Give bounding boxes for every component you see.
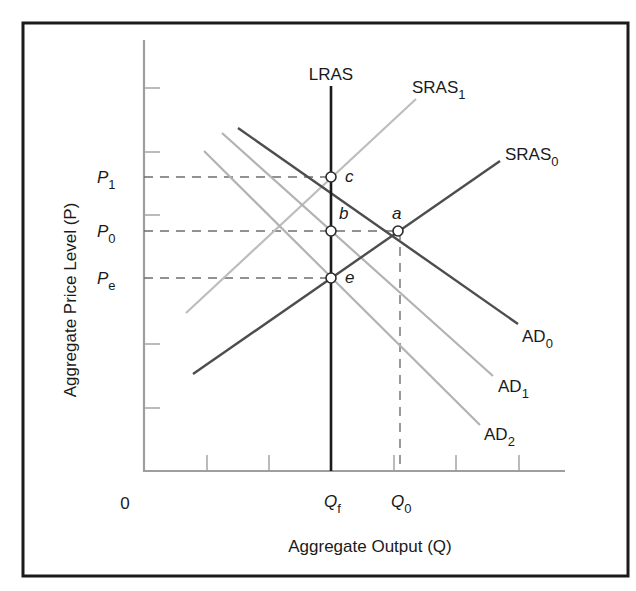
ad1-label: AD1	[498, 377, 529, 401]
chart-canvas: LRASSRAS1SRAS0AD0AD1AD2 abce Aggregate P…	[0, 0, 636, 591]
sras1-label: SRAS1	[412, 78, 466, 102]
ad2-curve	[204, 151, 480, 425]
y-axis-title: Aggregate Price Level (P)	[61, 203, 80, 398]
equilibrium-points: abce	[326, 167, 403, 287]
point-e-marker	[326, 273, 336, 283]
sras1-curve	[186, 99, 416, 313]
point-b-marker	[326, 226, 336, 236]
x-value-label-qf: Qf	[324, 492, 341, 516]
axes	[143, 40, 565, 471]
y-value-label-p0: P0	[97, 222, 116, 246]
aggregate-supply-demand-diagram: LRASSRAS1SRAS0AD0AD1AD2 abce Aggregate P…	[0, 0, 636, 591]
y-value-label-p1: P1	[97, 168, 116, 192]
ad2-label: AD2	[484, 425, 515, 449]
origin-label: 0	[120, 494, 129, 513]
point-e-label: e	[345, 268, 354, 287]
labels: Aggregate Price Level (P) Aggregate Outp…	[61, 168, 452, 556]
y-value-label-pe: Pe	[97, 269, 116, 293]
ad0-label: AD0	[522, 327, 553, 351]
curves: LRASSRAS1SRAS0AD0AD1AD2	[186, 65, 559, 471]
x-axis-title: Aggregate Output (Q)	[288, 537, 451, 556]
ad1-curve	[222, 133, 493, 376]
point-a-marker	[393, 226, 403, 236]
sras0-label: SRAS0	[505, 145, 559, 169]
point-b-label: b	[339, 204, 348, 223]
point-a-label: a	[392, 204, 401, 223]
point-c-marker	[326, 172, 336, 182]
lras-label: LRAS	[309, 65, 353, 84]
dashed-guides	[144, 177, 400, 471]
x-value-label-q0: Q0	[391, 492, 411, 516]
point-c-label: c	[345, 167, 354, 186]
